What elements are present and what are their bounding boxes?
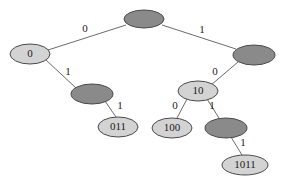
tree-node[interactable]: 0 <box>10 44 50 64</box>
edge-label: 1 <box>209 99 215 111</box>
tree-node[interactable]: 011 <box>98 117 138 137</box>
node-shape-internal <box>71 84 113 104</box>
node-label: 011 <box>110 120 126 132</box>
node-label: 100 <box>164 121 181 133</box>
tree-edge <box>105 101 116 117</box>
edge-label: 0 <box>82 22 88 34</box>
diagram-canvas: 0100111001011 01101011 <box>0 0 286 183</box>
node-shape-internal <box>233 45 275 65</box>
edge-label: 1 <box>240 136 246 148</box>
edge-label: 1 <box>65 65 71 77</box>
tree-edge <box>46 60 76 88</box>
tree-node[interactable] <box>233 45 275 65</box>
node-label: 10 <box>193 84 205 96</box>
edge-label: 0 <box>212 65 218 77</box>
tree-node[interactable] <box>71 84 113 104</box>
edge-label: 1 <box>117 99 123 111</box>
tree-node[interactable]: 100 <box>152 118 192 138</box>
tree-node[interactable] <box>124 10 164 28</box>
tree-node[interactable]: 1011 <box>222 155 268 175</box>
nodes-layer: 0100111001011 <box>10 10 275 175</box>
node-label: 1011 <box>234 158 256 170</box>
edge-label: 0 <box>172 99 178 111</box>
edge-label: 1 <box>199 23 205 35</box>
tree-edge <box>177 99 187 118</box>
binary-trie-diagram: 0100111001011 01101011 <box>0 0 286 183</box>
node-label: 0 <box>27 47 33 59</box>
node-shape-internal <box>124 10 164 28</box>
